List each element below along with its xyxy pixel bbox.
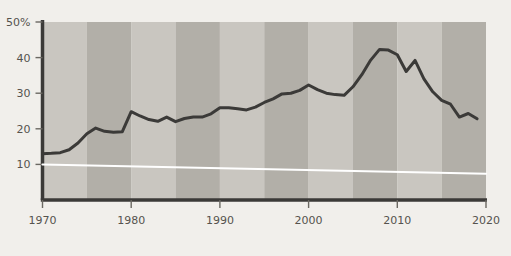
background-bands: [43, 22, 487, 200]
background-band: [131, 22, 175, 200]
x-axis-tick-label: 1990: [206, 214, 234, 227]
y-axis-tick-label: 10: [17, 158, 31, 171]
x-axis-tick-label: 1970: [29, 214, 57, 227]
chart-container: 50%40302010 197019801990200020102020: [0, 0, 511, 256]
y-axis-tick-label: 30: [17, 87, 31, 100]
x-axis-tick-label: 2010: [383, 214, 411, 227]
x-axis-tick-label: 2000: [295, 214, 323, 227]
background-band: [87, 22, 131, 200]
background-band: [353, 22, 397, 200]
y-axis-ticks: 50%40302010: [6, 16, 42, 171]
y-axis-tick-label: 20: [17, 123, 31, 136]
line-chart: 50%40302010 197019801990200020102020: [0, 0, 511, 256]
background-band: [264, 22, 308, 200]
x-axis-tick-label: 2020: [472, 214, 500, 227]
x-axis-tick-label: 1980: [117, 214, 145, 227]
background-band: [43, 22, 87, 200]
y-axis-tick-label: 50%: [6, 16, 30, 29]
background-band: [309, 22, 353, 200]
y-axis-tick-label: 40: [17, 52, 31, 65]
background-band: [220, 22, 264, 200]
x-axis-ticks: 197019801990200020102020: [29, 200, 501, 227]
